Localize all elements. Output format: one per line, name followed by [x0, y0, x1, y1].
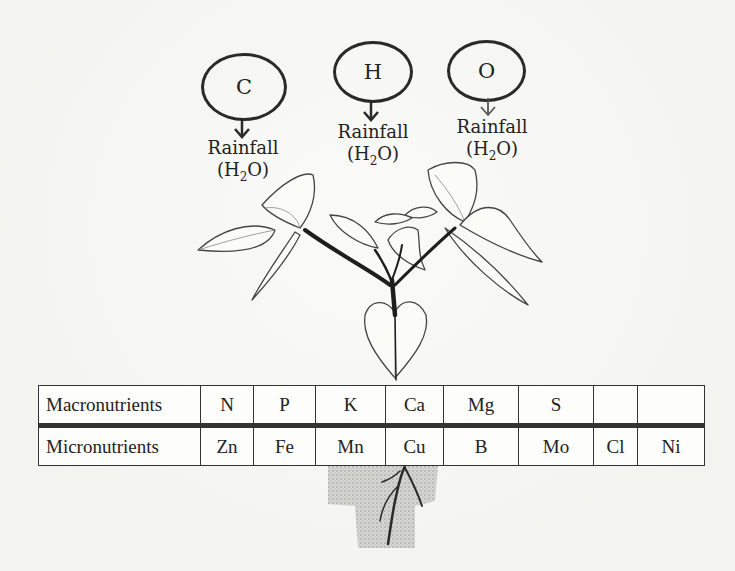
- roots-soil-illustration: [320, 466, 500, 556]
- rainfall-text: Rainfall: [447, 116, 537, 138]
- plant-illustration: [190, 160, 550, 388]
- nutrient-cell: Mg: [444, 386, 519, 426]
- diagram-canvas: C H O Rainfall (H2O) Rainfall (H2O) Rain…: [0, 0, 735, 571]
- rainfall-text: Rainfall: [328, 121, 418, 143]
- nutrient-cell: Mn: [316, 426, 386, 466]
- nutrient-cell: Cl: [594, 426, 638, 466]
- nutrient-cell: Ca: [386, 386, 444, 426]
- carbon-circle: C: [201, 53, 287, 121]
- rainfall-text: Rainfall: [198, 137, 288, 159]
- down-arrow-icon: [361, 101, 381, 123]
- hydrogen-label: H: [364, 60, 382, 84]
- down-arrow-icon: [478, 98, 498, 118]
- row-header: Macronutrients: [39, 386, 201, 426]
- nutrient-cell: Fe: [254, 426, 316, 466]
- nutrient-cell: P: [254, 386, 316, 426]
- nutrient-cell: Cu: [386, 426, 444, 466]
- nutrient-cell: N: [201, 386, 254, 426]
- carbon-label: C: [236, 75, 252, 99]
- nutrient-cell: B: [444, 426, 519, 466]
- nutrient-cell: [638, 386, 705, 426]
- nutrient-cell: [594, 386, 638, 426]
- row-header: Micronutrients: [39, 426, 201, 466]
- nutrient-cell: Ni: [638, 426, 705, 466]
- nutrient-cell: Mo: [519, 426, 594, 466]
- oxygen-circle: O: [447, 40, 526, 102]
- rainfall-label-oxygen: Rainfall (H2O): [447, 116, 537, 167]
- hydrogen-circle: H: [333, 41, 413, 103]
- nutrient-table: Macronutrients N P K Ca Mg S Micronutrie…: [38, 385, 705, 466]
- oxygen-label: O: [478, 59, 495, 83]
- micronutrients-row: Micronutrients Zn Fe Mn Cu B Mo Cl Ni: [39, 426, 705, 466]
- nutrient-cell: Zn: [201, 426, 254, 466]
- nutrient-cell: K: [316, 386, 386, 426]
- nutrient-cell: S: [519, 386, 594, 426]
- macronutrients-row: Macronutrients N P K Ca Mg S: [39, 386, 705, 426]
